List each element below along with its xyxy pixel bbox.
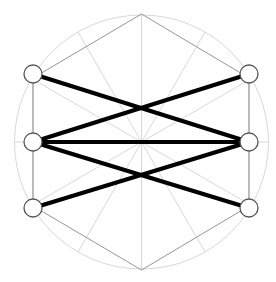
node-bottom-left[interactable] — [24, 199, 42, 217]
node-middle-left-circle[interactable] — [24, 133, 42, 151]
node-top-left-circle[interactable] — [24, 65, 42, 83]
node-bottom-right[interactable] — [240, 199, 258, 217]
node-bottom-right-circle[interactable] — [240, 199, 258, 217]
node-top-left[interactable] — [24, 65, 42, 83]
node-top-right-circle[interactable] — [240, 65, 258, 83]
node-bottom-left-circle[interactable] — [24, 199, 42, 217]
graph-figure-canvas — [0, 0, 276, 282]
node-middle-right-circle[interactable] — [240, 133, 258, 151]
node-top-right[interactable] — [240, 65, 258, 83]
node-middle-left[interactable] — [24, 133, 42, 151]
node-middle-right[interactable] — [240, 133, 258, 151]
